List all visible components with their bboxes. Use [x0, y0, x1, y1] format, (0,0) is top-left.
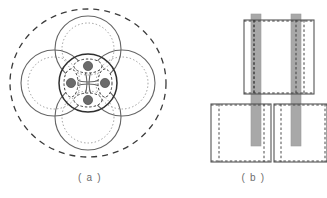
- panel-b-diagram: [0, 0, 327, 170]
- bottom-left-plate: [211, 104, 271, 162]
- figure-root: ( a ) ( b ): [0, 0, 327, 198]
- caption-panel-b: ( b ): [180, 172, 327, 183]
- caption-panel-a: ( a ): [0, 172, 180, 183]
- bottom-left-plate-rect: [211, 104, 271, 162]
